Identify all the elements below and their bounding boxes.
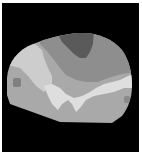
segmented-region-map xyxy=(0,0,142,159)
left-small-spot-region xyxy=(13,78,21,87)
right-small-spot-region xyxy=(124,96,130,103)
